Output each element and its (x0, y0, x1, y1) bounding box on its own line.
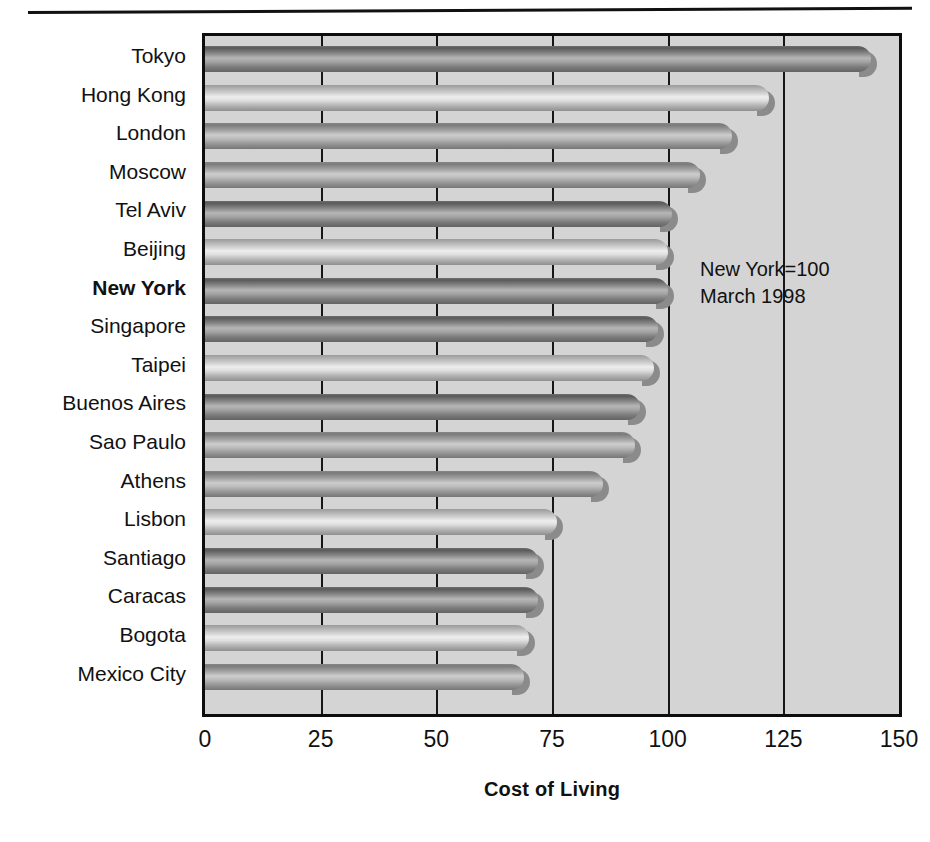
y-axis-label-moscow: Moscow (0, 153, 186, 192)
x-axis-tick-150: 150 (880, 726, 918, 753)
y-axis-label-hong-kong: Hong Kong (0, 76, 186, 115)
bar-hong-kong (205, 85, 769, 111)
y-axis-label-tokyo: Tokyo (0, 37, 186, 76)
bar-mexico-city (205, 664, 524, 690)
chart-plot-frame (202, 33, 902, 717)
bar-fill (205, 587, 538, 613)
y-axis-label-tel-aviv: Tel Aviv (0, 191, 186, 230)
bar-fill (205, 548, 538, 574)
bar-beijing (205, 239, 668, 265)
bar-athens (205, 471, 603, 497)
x-axis-tick-125: 125 (764, 726, 802, 753)
y-axis-label-london: London (0, 114, 186, 153)
bar-row (205, 117, 899, 156)
bar-rows (205, 36, 899, 714)
x-axis-tick-0: 0 (199, 726, 212, 753)
bar-fill (205, 278, 668, 304)
x-axis-tick-75: 75 (539, 726, 565, 753)
bar-row (205, 156, 899, 195)
chart-annotation: New York=100 March 1998 (700, 256, 830, 310)
y-axis-label-mexico-city: Mexico City (0, 655, 186, 694)
y-axis-label-singapore: Singapore (0, 307, 186, 346)
bar-fill (205, 432, 635, 458)
chart-page: TokyoHong KongLondonMoscowTel AvivBeijin… (0, 0, 930, 842)
x-axis-tick-25: 25 (308, 726, 334, 753)
bar-row (205, 658, 899, 697)
y-axis-label-new-york: New York (0, 269, 186, 308)
bar-row (205, 310, 899, 349)
bar-row (205, 349, 899, 388)
bar-fill (205, 316, 658, 342)
annotation-line-1: New York=100 (700, 256, 830, 283)
y-axis-label-sao-paulo: Sao Paulo (0, 423, 186, 462)
bar-fill (205, 239, 668, 265)
bar-row (205, 426, 899, 465)
bar-lisbon (205, 509, 557, 535)
bar-fill (205, 394, 640, 420)
bar-tel-aviv (205, 201, 672, 227)
bar-fill (205, 664, 524, 690)
y-axis-label-santiago: Santiago (0, 539, 186, 578)
bar-row (205, 79, 899, 118)
page-top-rule (28, 7, 912, 14)
bar-santiago (205, 548, 538, 574)
bar-fill (205, 123, 732, 149)
bar-singapore (205, 316, 658, 342)
bar-bogota (205, 625, 529, 651)
x-axis-tick-50: 50 (424, 726, 450, 753)
x-axis-tick-100: 100 (648, 726, 686, 753)
bar-fill (205, 162, 700, 188)
x-axis-title: Cost of Living (202, 778, 902, 801)
bar-caracas (205, 587, 538, 613)
bar-row (205, 40, 899, 79)
bar-fill (205, 201, 672, 227)
bar-tokyo (205, 46, 871, 72)
y-axis-label-athens: Athens (0, 462, 186, 501)
bar-london (205, 123, 732, 149)
bar-moscow (205, 162, 700, 188)
annotation-line-2: March 1998 (700, 283, 830, 310)
bar-fill (205, 85, 769, 111)
bar-row (205, 194, 899, 233)
y-axis-label-taipei: Taipei (0, 346, 186, 385)
bar-new-york (205, 278, 668, 304)
bar-fill (205, 625, 529, 651)
bar-fill (205, 509, 557, 535)
bar-row (205, 580, 899, 619)
bar-sao-paulo (205, 432, 635, 458)
bar-fill (205, 471, 603, 497)
y-axis-label-lisbon: Lisbon (0, 500, 186, 539)
bar-row (205, 465, 899, 504)
y-axis-label-beijing: Beijing (0, 230, 186, 269)
bar-row (205, 503, 899, 542)
plot-area (205, 36, 899, 714)
bar-row (205, 542, 899, 581)
bar-buenos-aires (205, 394, 640, 420)
y-axis-category-labels: TokyoHong KongLondonMoscowTel AvivBeijin… (0, 33, 186, 717)
bar-fill (205, 355, 654, 381)
bar-taipei (205, 355, 654, 381)
bar-row (205, 619, 899, 658)
x-axis-tick-labels: 0255075100125150 (202, 726, 902, 760)
y-axis-label-bogota: Bogota (0, 616, 186, 655)
bar-fill (205, 46, 871, 72)
y-axis-label-buenos-aires: Buenos Aires (0, 384, 186, 423)
y-axis-label-caracas: Caracas (0, 577, 186, 616)
bar-row (205, 387, 899, 426)
